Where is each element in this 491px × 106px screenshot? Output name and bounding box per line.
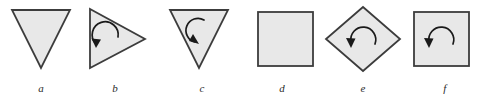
figure-panel: a b c (0, 0, 491, 106)
figure-item-d: d (241, 0, 323, 106)
shape-triangle-down-icon (161, 4, 243, 74)
shape-triangle-right-icon (74, 4, 156, 74)
shape-square-icon (241, 4, 323, 74)
figure-label-c: c (161, 82, 243, 95)
figure-label-e: e (322, 82, 404, 95)
figure-label-f: f (404, 82, 486, 95)
figure-label-d: d (241, 82, 323, 95)
figure-label-a: a (0, 82, 82, 95)
shape-triangle-down-icon (0, 4, 82, 74)
figure-item-e: e (322, 0, 404, 106)
figure-item-b: b (74, 0, 156, 106)
shape-square-icon (404, 4, 486, 74)
shape-diamond-icon (322, 4, 404, 74)
figure-item-f: f (404, 0, 486, 106)
figure-item-a: a (0, 0, 82, 106)
figure-item-c: c (161, 0, 243, 106)
figure-label-b: b (74, 82, 156, 95)
